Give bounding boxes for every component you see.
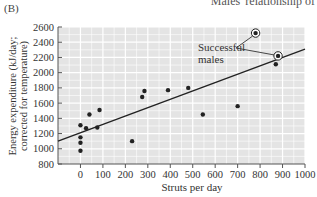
data-point — [84, 126, 88, 130]
data-point — [201, 112, 205, 116]
x-tick-label: 800 — [252, 169, 268, 180]
data-point — [274, 62, 278, 66]
x-tick-label: 500 — [185, 169, 201, 180]
y-axis-label-line2: corrected for temperature) — [18, 40, 30, 151]
data-point — [87, 112, 91, 116]
y-tick-label: 2200 — [33, 52, 54, 63]
x-tick-label: 400 — [162, 169, 178, 180]
data-point — [235, 104, 239, 108]
y-tick-label: 800 — [38, 159, 54, 170]
x-tick-label: 700 — [230, 169, 246, 180]
data-point — [166, 88, 170, 92]
data-point — [78, 148, 82, 152]
y-tick-label: 2000 — [33, 67, 54, 78]
x-tick-label: 900 — [275, 169, 291, 180]
data-point — [276, 54, 280, 58]
x-tick-label: 200 — [117, 169, 133, 180]
x-tick-label: 100 — [95, 169, 111, 180]
data-point — [78, 123, 82, 127]
y-tick-label: 1000 — [33, 143, 54, 154]
y-tick-label: 1200 — [33, 128, 54, 139]
data-point — [140, 95, 144, 99]
x-tick-label: 300 — [140, 169, 156, 180]
data-point — [78, 135, 82, 139]
annotation-text-line2: males — [198, 53, 224, 65]
y-tick-label: 2600 — [33, 22, 54, 33]
data-point — [78, 140, 82, 144]
data-point — [97, 108, 101, 112]
x-tick-label: 1000 — [295, 169, 316, 180]
y-tick-label: 1800 — [33, 82, 54, 93]
x-tick-label: 600 — [207, 169, 223, 180]
y-tick-label: 1600 — [33, 98, 54, 109]
x-axis-label: Struts per day — [161, 181, 223, 193]
scatter-chart: 8001000120014001600180020002200240026000… — [0, 0, 317, 197]
data-point — [142, 89, 146, 93]
data-point — [186, 86, 190, 90]
data-point — [130, 139, 134, 143]
data-point — [253, 31, 257, 35]
x-tick-label: 0 — [78, 169, 83, 180]
y-tick-label: 1400 — [33, 113, 54, 124]
data-point — [95, 125, 99, 129]
y-tick-label: 2400 — [33, 37, 54, 48]
